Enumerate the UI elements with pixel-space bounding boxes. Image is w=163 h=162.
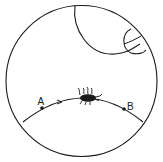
point-b	[122, 107, 126, 111]
diagram: A B	[0, 0, 163, 162]
boundary-circle	[6, 6, 157, 157]
label-a: A	[38, 96, 45, 107]
small-arc-chord	[124, 36, 141, 44]
label-b: B	[127, 101, 134, 112]
insect-icon	[78, 87, 102, 105]
small-geodesic-arc	[124, 29, 146, 54]
large-geodesic-arc	[75, 6, 140, 54]
